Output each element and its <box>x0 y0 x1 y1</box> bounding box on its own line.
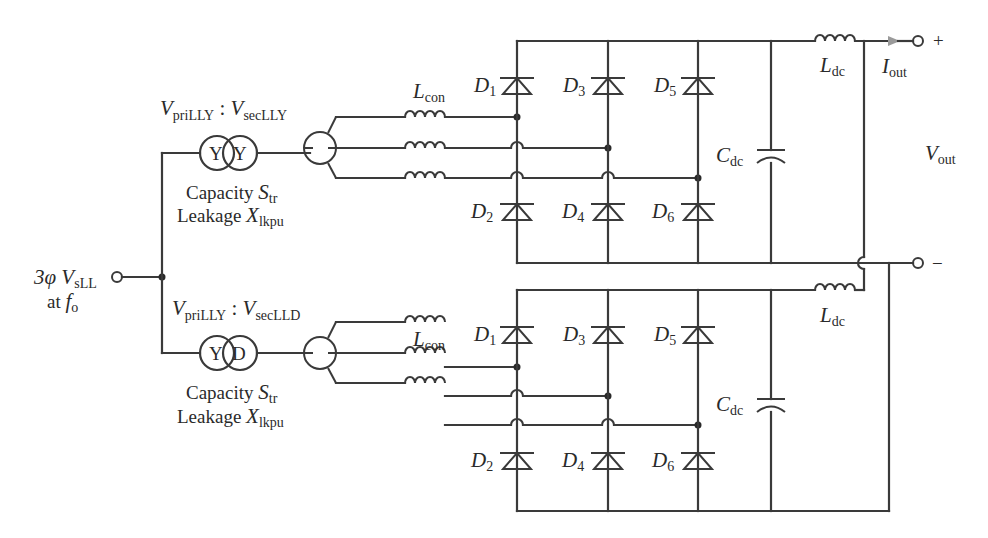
diode-label: D4 <box>561 199 584 225</box>
inductor-icon <box>405 111 445 117</box>
leakage-label: Leakage Xlkpu <box>177 404 284 430</box>
iout-label: Iout <box>881 54 907 80</box>
positive-label: + <box>933 30 944 51</box>
secondary-connection-label: D <box>232 343 246 364</box>
input-terminal-icon <box>112 272 122 282</box>
inductor-icon <box>815 284 855 290</box>
diode-label: D6 <box>651 448 674 474</box>
rectifier-bridge-top: Lcon D1 D3 D5 D2 D4 D6 Cdc <box>405 35 860 263</box>
lcon-label: Lcon <box>412 79 445 105</box>
circuit-diagram: 3φ VsLL at fo Y Y VpriLLY : VsecLLY Capa… <box>0 0 988 538</box>
primary-connection-label: Y <box>209 343 223 364</box>
ldc-label: Ldc <box>819 303 845 329</box>
diode-label: D5 <box>653 73 676 99</box>
vout-label: Vout <box>925 141 956 167</box>
inductor-icon <box>405 316 445 322</box>
turns-ratio-label: VpriLLY : VsecLLY <box>160 96 287 123</box>
diode-label: D1 <box>473 322 496 348</box>
diode-label: D1 <box>473 73 496 99</box>
diode-label: D6 <box>651 199 674 225</box>
diode-label: D3 <box>562 73 585 99</box>
transformer-yy: Y Y VpriLLY : VsecLLY Capacity Str Leaka… <box>160 96 405 229</box>
turns-ratio-label: VpriLLY : VsecLLD <box>172 296 300 323</box>
diode-label: D2 <box>470 448 493 474</box>
negative-terminal-icon[interactable] <box>913 258 923 268</box>
positive-terminal-icon[interactable] <box>913 36 923 46</box>
rectifier-bridge-bottom: Lcon D1 D3 D5 D2 D4 D6 Cdc Ldc <box>405 284 889 511</box>
inductor-icon <box>815 35 855 41</box>
input-frequency-label: at fo <box>47 289 78 315</box>
diode-label: D5 <box>653 322 676 348</box>
cdc-label: Cdc <box>716 392 743 418</box>
leakage-label: Leakage Xlkpu <box>177 203 284 229</box>
input-voltage-label: 3φ VsLL <box>33 265 97 291</box>
ldc-label: Ldc <box>819 53 845 79</box>
inductor-icon <box>405 142 445 148</box>
capacity-label: Capacity Str <box>186 380 278 406</box>
transformer-yd: Y D VpriLLY : VsecLLD Capacity Str Leaka… <box>172 296 405 430</box>
secondary-connection-label: Y <box>233 143 247 164</box>
diode-label: D4 <box>561 448 584 474</box>
ac-input: 3φ VsLL at fo <box>33 153 200 353</box>
inductor-icon <box>405 172 445 178</box>
diode-label: D2 <box>470 199 493 225</box>
inductor-icon <box>405 377 445 383</box>
cdc-label: Cdc <box>716 143 743 169</box>
diode-label: D3 <box>562 322 585 348</box>
capacity-label: Capacity Str <box>186 180 278 206</box>
dc-output: + Iout Vout − <box>855 30 956 511</box>
primary-connection-label: Y <box>209 143 223 164</box>
negative-label: − <box>932 253 943 274</box>
lcon-label: Lcon <box>412 327 445 353</box>
